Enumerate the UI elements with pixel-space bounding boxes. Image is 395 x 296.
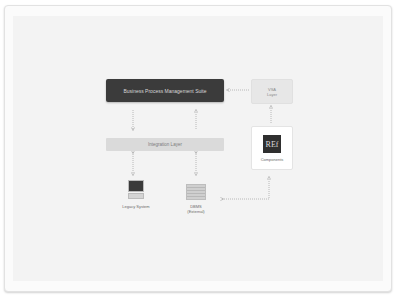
dbms-node[interactable]: DBMS (External)	[176, 180, 216, 220]
ref-logo-icon: REf	[263, 135, 281, 153]
legacy-system-node[interactable]: Legacy System	[116, 180, 156, 216]
vsa-layer-node[interactable]: VSA Layer	[251, 79, 293, 104]
bpms-label: Business Process Management Suite	[123, 88, 206, 94]
edge-dbms-components	[222, 178, 269, 199]
components-node[interactable]: REf Components	[251, 126, 293, 170]
bpms-node[interactable]: Business Process Management Suite	[106, 79, 224, 102]
ref-logo-text: REf	[266, 140, 279, 149]
integration-layer-node[interactable]: Integration Layer	[106, 138, 224, 151]
integration-label: Integration Layer	[148, 142, 182, 147]
dbms-label: DBMS (External)	[187, 204, 204, 214]
components-label: Components	[261, 157, 284, 162]
vsa-label-line2: Layer	[267, 92, 277, 97]
database-table-icon	[186, 184, 206, 200]
computer-icon	[128, 180, 144, 200]
legacy-label: Legacy System	[122, 204, 149, 209]
dbms-label-line2: (External)	[187, 209, 204, 214]
